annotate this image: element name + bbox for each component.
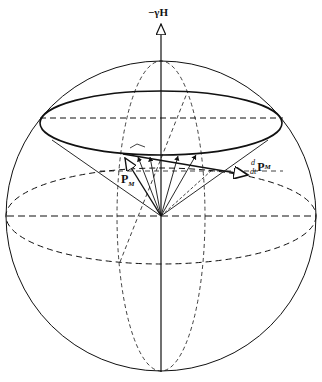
derivative-vector: [123, 154, 248, 175]
right-angle-mark: [130, 144, 145, 148]
field-axis-label: −γH: [148, 6, 168, 18]
derivative-label: d dt PM: [250, 158, 271, 176]
derivative-fraction: d dt: [250, 158, 256, 176]
fan-vector-4: [161, 155, 196, 216]
fan-vector-3: [161, 156, 178, 216]
sphere-diagram: [0, 0, 322, 382]
magnetization-label: PM: [121, 172, 135, 188]
